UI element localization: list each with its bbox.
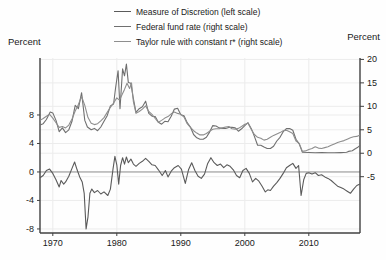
right-axis-tick-label: 5: [367, 125, 372, 135]
right-axis-tick-label: 10: [367, 101, 377, 111]
x-axis-tick-label: 1970: [38, 238, 68, 248]
series-line-federal-fund-rate: [40, 64, 360, 153]
legend-item-measure-of-discretion: Measure of Discretion (left scale): [114, 4, 282, 19]
left-axis-tick-label: -8: [8, 224, 34, 234]
legend-label: Taylor rule with constant r* (right scal…: [136, 37, 282, 47]
line-swatch-icon: [114, 11, 131, 12]
legend-item-taylor-rule: Taylor rule with constant r* (right scal…: [114, 34, 282, 49]
series-line-measure-of-discretion: [40, 156, 360, 229]
left-axis-tick-label: 4: [8, 138, 34, 148]
series-line-taylor-rule-constant-rstar: [40, 83, 360, 151]
discretion-vs-rules-chart: Percent Percent Measure of Discretion (l…: [0, 0, 386, 260]
right-axis-tick-label: -5: [367, 172, 375, 182]
left-axis-title: Percent: [8, 36, 41, 47]
x-axis-tick-label: 2010: [294, 238, 324, 248]
chart-legend: Measure of Discretion (left scale) Feder…: [114, 4, 282, 49]
legend-label: Measure of Discretion (left scale): [136, 7, 260, 17]
right-axis-tick-label: 20: [367, 54, 377, 64]
left-axis-tick-label: -4: [8, 195, 34, 205]
right-axis-tick-label: 15: [367, 78, 377, 88]
right-axis-title: Percent: [347, 31, 380, 42]
x-axis-tick-label: 2000: [230, 238, 260, 248]
left-axis-tick-label: 8: [8, 110, 34, 120]
x-axis-tick-label: 1990: [166, 238, 196, 248]
left-axis-tick-label: 0: [8, 167, 34, 177]
legend-label: Federal fund rate (right scale): [136, 22, 248, 32]
legend-item-federal-fund-rate: Federal fund rate (right scale): [114, 19, 282, 34]
line-swatch-icon: [114, 41, 131, 42]
line-swatch-icon: [114, 26, 131, 27]
x-axis-tick-label: 1980: [102, 238, 132, 248]
right-axis-tick-label: 0: [367, 148, 372, 158]
